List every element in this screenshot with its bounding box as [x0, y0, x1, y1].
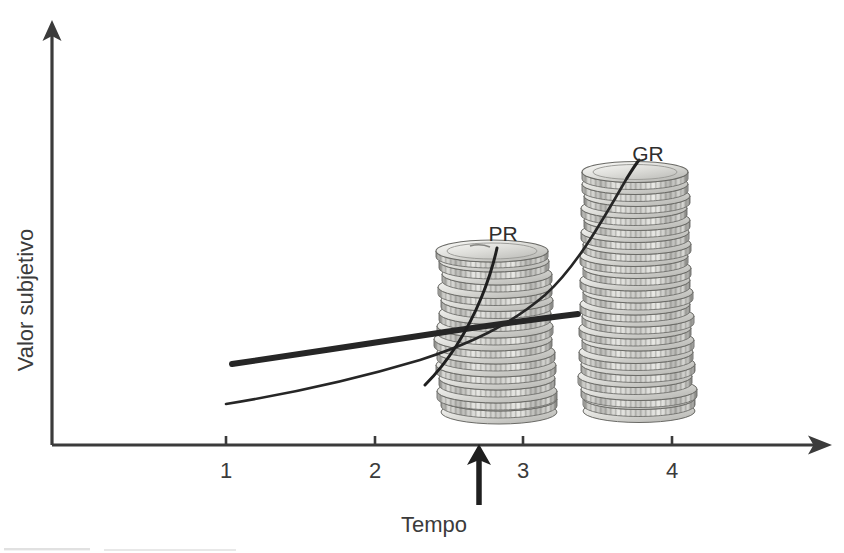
scan-artifact: [104, 549, 236, 551]
y-axis-label: Valor subjetivo: [13, 229, 38, 372]
decision-point-arrow: [467, 444, 491, 505]
discounting-curve-figure: 1 2 3 4 Valor subjetivo: [0, 0, 844, 553]
x-tick-label-3: 3: [517, 458, 529, 483]
coin-stack-gr: [578, 162, 697, 423]
x-tick-label-4: 4: [666, 458, 678, 483]
x-tick-label-2: 2: [369, 458, 381, 483]
x-tick-label-1: 1: [220, 458, 232, 483]
curve-label-gr: GR: [632, 142, 664, 165]
axes-group: 1 2 3 4 Valor subjetivo: [13, 20, 832, 483]
curve-gr: [226, 178, 627, 404]
chart-svg: 1 2 3 4 Valor subjetivo: [0, 0, 844, 553]
scan-artifact: [4, 548, 90, 550]
curve-label-pr: PR: [488, 222, 517, 245]
x-axis-label: Tempo: [401, 512, 467, 537]
